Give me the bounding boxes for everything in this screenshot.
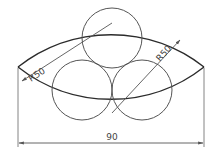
left-radius-label: R50 — [27, 65, 48, 83]
lens-top-arc — [18, 35, 204, 67]
top-circle — [82, 8, 142, 68]
bottom-left-circle — [52, 60, 112, 120]
width-label: 90 — [106, 132, 118, 142]
technical-drawing: R50 R50 90 — [0, 0, 217, 153]
